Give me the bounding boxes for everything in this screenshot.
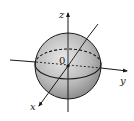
x-axis-label: x [30,101,36,112]
x-axis-back [88,24,98,37]
z-axis-label: z [58,9,65,20]
origin-label: 0 [59,55,65,66]
sphere-diagram: z y x 0 [0,0,134,121]
y-axis-label: y [119,75,126,86]
y-axis-back [10,60,36,62]
y-axis-front [101,68,127,71]
